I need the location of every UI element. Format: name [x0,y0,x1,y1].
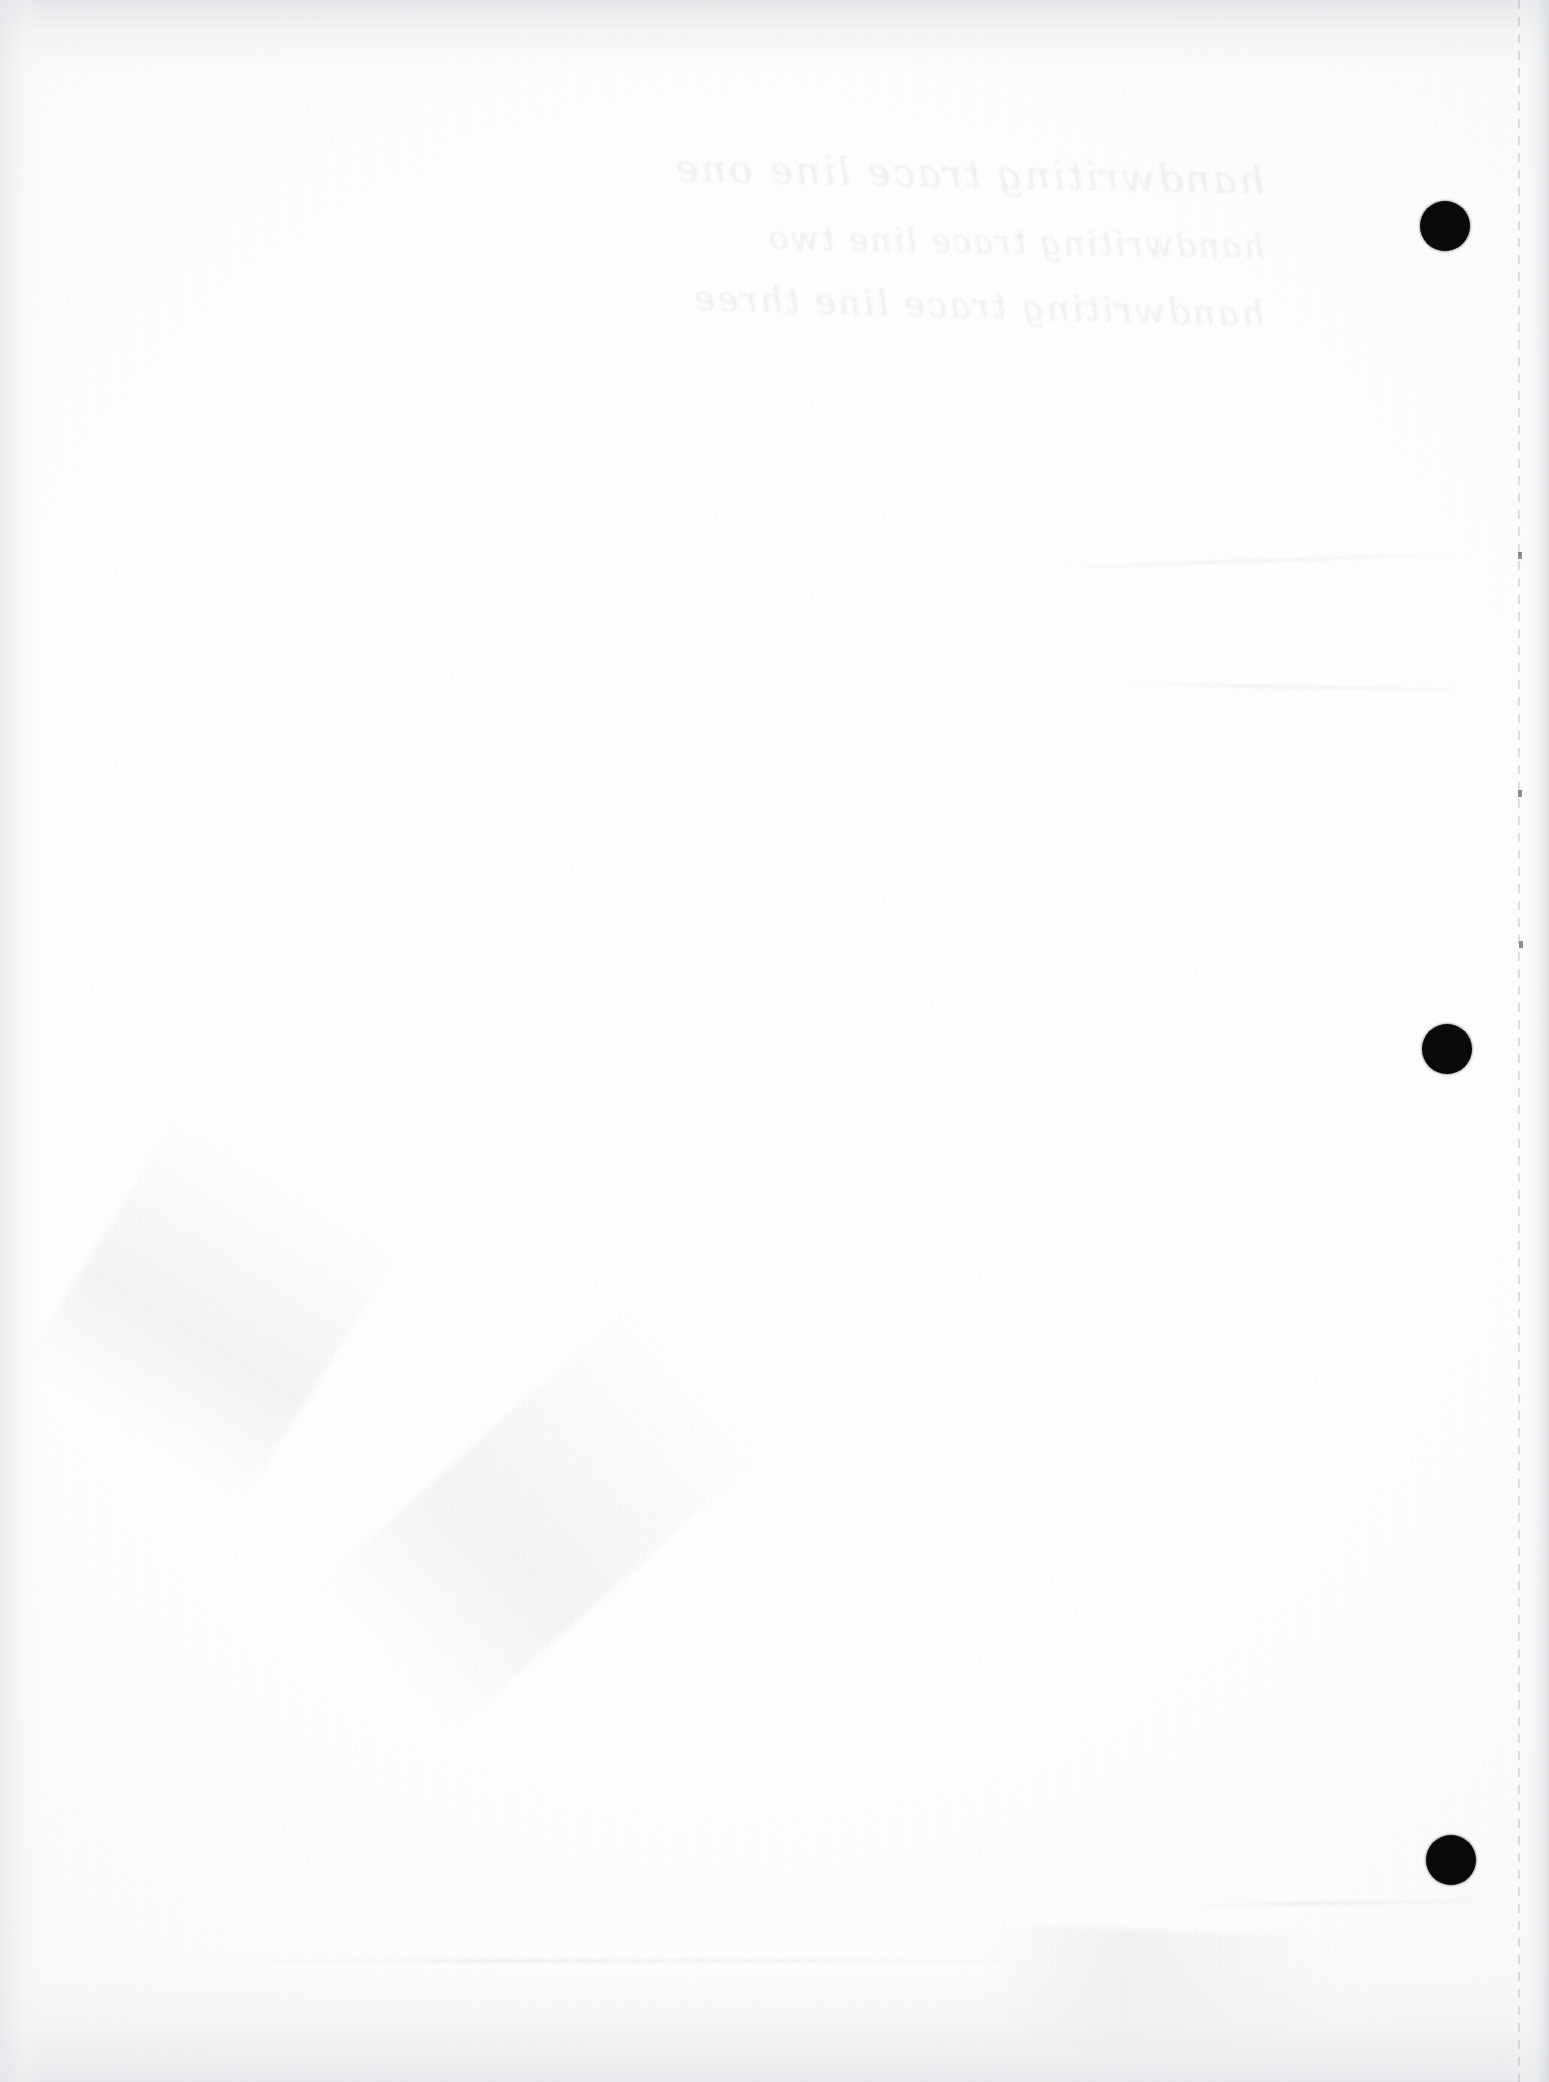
punch-hole-top [1420,201,1470,251]
scanned-page: handwriting trace line one handwriting t… [0,0,1549,2082]
crease-lower-right [1180,1899,1510,1907]
crease-bottom-band [180,1960,1080,1962]
crease-mid-right [1120,683,1480,691]
showthrough-line-2: handwriting trace line two [656,217,1265,267]
smudge-bottom-right [978,1924,1342,2056]
page-edge-shadow-right [1509,0,1549,2082]
punch-hole-bottom [1426,1835,1476,1885]
showthrough-line-1: handwriting trace line one [630,143,1265,202]
smudge-lower-center [317,1305,763,1735]
page-edge-shadow-bottom [0,1962,1549,2082]
edge-speck-2 [1518,790,1522,797]
page-edge-perforation-line [1518,0,1520,2082]
edge-speck-1 [1518,552,1522,559]
paper-grain-texture [0,0,1549,2082]
punch-hole-middle [1422,1024,1472,1074]
page-edge-shadow-top [0,0,1549,70]
sheet-right-edge-shadow [1531,0,1549,2082]
smudge-lower-left [20,1114,399,1506]
edge-speck-3 [1519,941,1523,948]
crease-upper-right [1040,552,1470,569]
handwriting-showthrough: handwriting trace line one handwriting t… [630,150,1265,326]
paper-fine-fibre-texture [0,0,1549,2082]
showthrough-line-3: handwriting trace line three [692,277,1265,334]
page-edge-shadow-left [0,0,46,2082]
